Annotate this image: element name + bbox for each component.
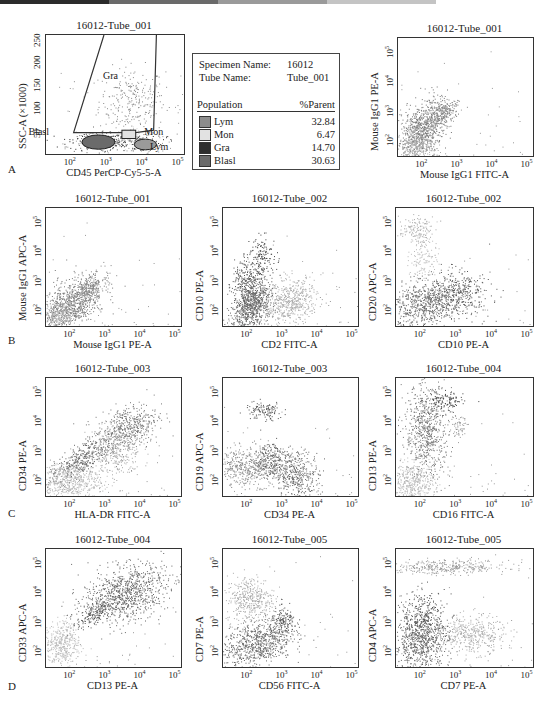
x-tick-label: 102 <box>415 158 427 169</box>
plot-area <box>395 207 534 327</box>
x-tick-label: 102 <box>414 498 426 509</box>
y-tick-label: 103 <box>382 616 393 628</box>
x-tick-label: 105 <box>521 498 533 509</box>
x-axis-label: CD45 PerCP-Cy5-5-A <box>45 167 183 178</box>
plot-area <box>222 548 359 668</box>
scatter-points <box>396 378 533 496</box>
plot-title: 16012-Tube_004 <box>45 533 180 545</box>
legend-row: Gra 14.70 <box>199 141 335 154</box>
y-tick-label: 103 <box>382 275 393 287</box>
x-axis-label: CD56 FITC-A <box>222 680 357 691</box>
y-tick-label: 105 <box>32 557 43 569</box>
y-axis-label: CD33 APC-A <box>17 603 28 662</box>
plot-area <box>222 377 359 497</box>
y-tick-label: 104 <box>32 245 43 257</box>
x-tick-label: 104 <box>134 498 146 509</box>
x-axis-label: CD16 FITC-A <box>395 509 532 520</box>
gate-label: Mon <box>144 126 163 137</box>
plot-title: 16012-Tube_005 <box>395 533 532 545</box>
x-axis-label: HLA-DR FITC-A <box>45 509 180 520</box>
x-tick-label: 104 <box>311 328 323 339</box>
y-tick-label: 102 <box>209 645 220 657</box>
scatter-points <box>223 208 358 326</box>
y-axis-label: CD4 APC-A <box>367 609 378 662</box>
x-axis-label: Mouse IgG1 FITC-A <box>397 169 532 180</box>
panel-row-letter: C <box>8 507 15 519</box>
y-axis-label: CD10 PE-A <box>194 270 205 321</box>
legend-parent-value: 32.84 <box>311 116 335 127</box>
x-axis-label: CD10 PE-A <box>395 339 532 350</box>
y-tick-label: 104 <box>32 586 43 598</box>
y-axis-label: CD19 APC-A <box>194 432 205 491</box>
x-tick-label: 105 <box>169 669 181 680</box>
legend-swatch <box>199 129 211 141</box>
panel-row-letter: A <box>8 163 16 175</box>
y-tick-label: 102 <box>32 645 43 657</box>
scatter-points <box>46 208 181 326</box>
x-tick-label: 103 <box>449 328 461 339</box>
x-tick-label: 104 <box>485 669 497 680</box>
legend-row: Lym 32.84 <box>199 115 335 128</box>
scatter-points <box>46 35 184 154</box>
y-tick-label: 104 <box>384 75 395 87</box>
y-tick-label: 104 <box>209 415 220 427</box>
header-bar-segment <box>327 0 436 4</box>
x-tick-label: 105 <box>521 669 533 680</box>
x-tick-label: 105 <box>521 158 533 169</box>
plot-title: 16012-Tube_003 <box>222 362 357 374</box>
y-tick-label: 102 <box>32 474 43 486</box>
tube-value: Tube_001 <box>287 71 329 84</box>
panel-row-letter: D <box>8 680 16 692</box>
y-tick-label: 105 <box>32 386 43 398</box>
x-tick-label: 105 <box>171 156 183 167</box>
specimen-value: 16012 <box>287 58 313 71</box>
plot-title: 16012-Tube_001 <box>45 19 183 31</box>
x-tick-label: 105 <box>346 498 358 509</box>
y-tick-label: 105 <box>382 216 393 228</box>
y-axis-label: Mouse IgG1 PE-A <box>369 72 380 151</box>
x-axis-label: CD7 PE-A <box>395 680 532 691</box>
y-axis-label: CD13 PE-A <box>367 440 378 491</box>
plot-title: 16012-Tube_002 <box>222 192 357 204</box>
plot-title: 16012-Tube_001 <box>45 192 180 204</box>
x-tick-label: 104 <box>485 498 497 509</box>
x-axis-label: CD2 FITC-A <box>222 339 357 350</box>
y-tick-label: 102 <box>32 304 43 316</box>
x-tick-label: 102 <box>240 328 252 339</box>
legend-population-name: Mon <box>214 129 317 140</box>
gate-label: Lym <box>150 141 168 152</box>
x-tick-label: 103 <box>449 669 461 680</box>
plot-title: 16012-Tube_003 <box>45 362 180 374</box>
plot-area <box>222 207 359 327</box>
y-tick-label: 102 <box>382 474 393 486</box>
x-tick-label: 104 <box>134 328 146 339</box>
gate-label: Gra <box>103 70 118 81</box>
x-axis-label: CD34 PE-A <box>222 509 357 520</box>
x-axis-label: Mouse IgG1 PE-A <box>45 339 180 350</box>
legend-swatch <box>199 116 211 128</box>
scatter-points <box>396 208 533 326</box>
x-tick-label: 103 <box>98 498 110 509</box>
x-tick-label: 104 <box>311 498 323 509</box>
x-tick-label: 103 <box>275 498 287 509</box>
y-tick-label: 105 <box>209 386 220 398</box>
x-tick-label: 104 <box>311 669 323 680</box>
y-tick-label: 104 <box>382 415 393 427</box>
y-axis-label: Mouse IgG1 APC-A <box>17 235 28 321</box>
scatter-points <box>223 549 358 667</box>
scatter-points <box>46 549 181 667</box>
plot-area <box>45 34 185 155</box>
y-axis-label: SSC-A (×1000) <box>17 83 28 149</box>
page-header-bar <box>0 0 545 4</box>
header-bar-segment <box>109 0 218 4</box>
y-axis-label: CD34 PE-A <box>17 440 28 491</box>
plot-title: 16012-Tube_004 <box>395 362 532 374</box>
y-tick-label: 104 <box>209 245 220 257</box>
x-tick-label: 102 <box>414 669 426 680</box>
x-tick-label: 102 <box>240 498 252 509</box>
y-tick-label: 103 <box>209 616 220 628</box>
x-tick-label: 104 <box>485 328 497 339</box>
x-tick-label: 105 <box>521 328 533 339</box>
y-tick-label: 105 <box>382 386 393 398</box>
y-tick-label: 250 <box>32 33 42 47</box>
